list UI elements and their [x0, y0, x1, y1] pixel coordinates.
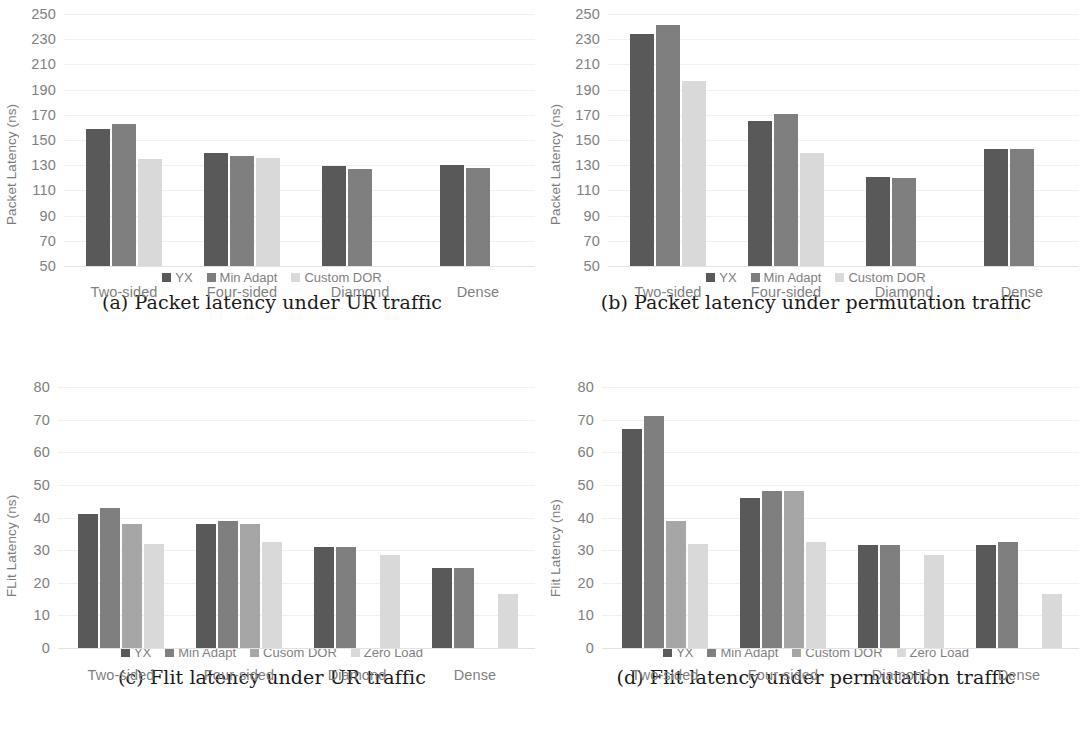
- bar-yx[interactable]: [858, 545, 878, 648]
- legend-swatch-icon: [835, 273, 844, 282]
- bar-yx[interactable]: [322, 166, 346, 266]
- y-axis-tick-label: 190: [566, 82, 600, 98]
- bar-zero-load[interactable]: [1042, 594, 1062, 648]
- bar-yx[interactable]: [196, 524, 216, 648]
- bar-yx[interactable]: [86, 129, 110, 266]
- bar-group: [984, 14, 1062, 266]
- bar-custom-dor[interactable]: [784, 491, 804, 648]
- bar-yx[interactable]: [984, 149, 1008, 266]
- bar-yx[interactable]: [314, 547, 334, 648]
- bar-min-adapt[interactable]: [230, 156, 254, 266]
- bar-min-adapt[interactable]: [348, 169, 372, 266]
- y-axis-tick-label: 210: [566, 56, 600, 72]
- y-axis-tick-label: 130: [566, 157, 600, 173]
- bar-yx[interactable]: [440, 165, 464, 266]
- bar-min-adapt[interactable]: [656, 25, 680, 266]
- chart-plot-area: Packet Latency (ns)250230210190170150130…: [544, 0, 1088, 268]
- bar-min-adapt[interactable]: [466, 168, 490, 266]
- bar-min-adapt[interactable]: [774, 114, 798, 266]
- bar-min-adapt[interactable]: [892, 178, 916, 266]
- legend-item[interactable]: YX: [706, 270, 736, 285]
- bar-cusom-dor[interactable]: [240, 524, 260, 648]
- y-axis-tick-label: 10: [22, 607, 50, 623]
- bar-empty: [918, 14, 942, 266]
- bar-yx[interactable]: [432, 568, 452, 648]
- legend-item[interactable]: Custom DOR: [291, 270, 381, 285]
- bar-zero-load[interactable]: [498, 594, 518, 648]
- legend-item[interactable]: Min Adapt: [751, 270, 822, 285]
- legend-swatch-icon: [351, 648, 360, 657]
- bar-min-adapt[interactable]: [1010, 149, 1034, 266]
- bar-empty: [358, 387, 378, 648]
- y-axis-tick-label: 40: [22, 510, 50, 526]
- bar-group: [866, 14, 944, 266]
- legend-item[interactable]: YX: [162, 270, 192, 285]
- x-axis-tick-label: Diamond: [328, 667, 387, 683]
- bar-min-adapt[interactable]: [100, 508, 120, 648]
- bar-min-adapt[interactable]: [218, 521, 238, 648]
- bar-custom-dor[interactable]: [138, 159, 162, 266]
- y-axis-tick-label: 230: [566, 31, 600, 47]
- y-axis-tick-label: 30: [22, 542, 50, 558]
- gridline: [602, 648, 1079, 649]
- bar-custom-dor[interactable]: [256, 158, 280, 266]
- legend-label: YX: [175, 270, 192, 285]
- bar-min-adapt[interactable]: [336, 547, 356, 648]
- legend-item[interactable]: Custom DOR: [835, 270, 925, 285]
- gridline: [58, 648, 535, 649]
- y-axis-tick-label: 80: [22, 379, 50, 395]
- x-axis-tick-label: Two-sided: [91, 284, 158, 300]
- y-axis-tick-label: 60: [22, 444, 50, 460]
- bar-zero-load[interactable]: [806, 542, 826, 648]
- y-axis-tick-label: 70: [22, 233, 56, 249]
- y-axis-tick-label: 70: [566, 412, 594, 428]
- bar-custom-dor[interactable]: [800, 153, 824, 266]
- bar-custom-dor[interactable]: [666, 521, 686, 648]
- bar-yx[interactable]: [622, 429, 642, 648]
- y-axis-tick-label: 110: [22, 182, 56, 198]
- y-axis-tick-label: 250: [566, 6, 600, 22]
- bar-cusom-dor[interactable]: [122, 524, 142, 648]
- bar-yx[interactable]: [976, 545, 996, 648]
- legend-label: YX: [719, 270, 736, 285]
- x-axis-tick-label: Four-sided: [204, 667, 274, 683]
- y-axis-tick-label: 0: [22, 640, 50, 656]
- legend-item[interactable]: Min Adapt: [207, 270, 278, 285]
- bar-group: [196, 387, 284, 648]
- bar-min-adapt[interactable]: [454, 568, 474, 648]
- legend-swatch-icon: [792, 648, 801, 657]
- bar-yx[interactable]: [78, 514, 98, 648]
- legend-label: Min Adapt: [220, 270, 278, 285]
- y-axis-tick-label: 150: [566, 132, 600, 148]
- bar-zero-load[interactable]: [380, 555, 400, 648]
- bar-min-adapt[interactable]: [644, 416, 664, 648]
- legend-label: Custom DOR: [848, 270, 925, 285]
- bar-zero-load[interactable]: [924, 555, 944, 648]
- y-axis-tick-label: 90: [566, 208, 600, 224]
- y-axis-tick-label: 150: [22, 132, 56, 148]
- y-axis-tick-label: 50: [566, 258, 600, 274]
- bar-custom-dor[interactable]: [682, 81, 706, 266]
- bar-zero-load[interactable]: [262, 542, 282, 648]
- bar-min-adapt[interactable]: [998, 542, 1018, 648]
- bar-min-adapt[interactable]: [112, 124, 136, 266]
- x-axis-tick-label: Dense: [454, 667, 496, 683]
- bar-yx[interactable]: [866, 177, 890, 266]
- bar-min-adapt[interactable]: [880, 545, 900, 648]
- legend-swatch-icon: [751, 273, 760, 282]
- bar-empty: [1036, 14, 1060, 266]
- y-axis-tick-label: 170: [22, 107, 56, 123]
- bar-yx[interactable]: [204, 153, 228, 266]
- bar-zero-load[interactable]: [144, 544, 164, 648]
- y-axis-tick-label: 130: [22, 157, 56, 173]
- bar-yx[interactable]: [630, 34, 654, 266]
- bar-yx[interactable]: [748, 121, 772, 266]
- y-axis-tick-label: 20: [566, 575, 594, 591]
- x-axis-tick-label: Four-sided: [207, 284, 277, 300]
- bar-group: [740, 387, 828, 648]
- panel-a: Packet Latency (ns)250230210190170150130…: [0, 0, 544, 375]
- bar-yx[interactable]: [740, 498, 760, 648]
- x-axis-tick-label: Four-sided: [748, 667, 818, 683]
- bar-min-adapt[interactable]: [762, 491, 782, 648]
- bar-zero-load[interactable]: [688, 544, 708, 648]
